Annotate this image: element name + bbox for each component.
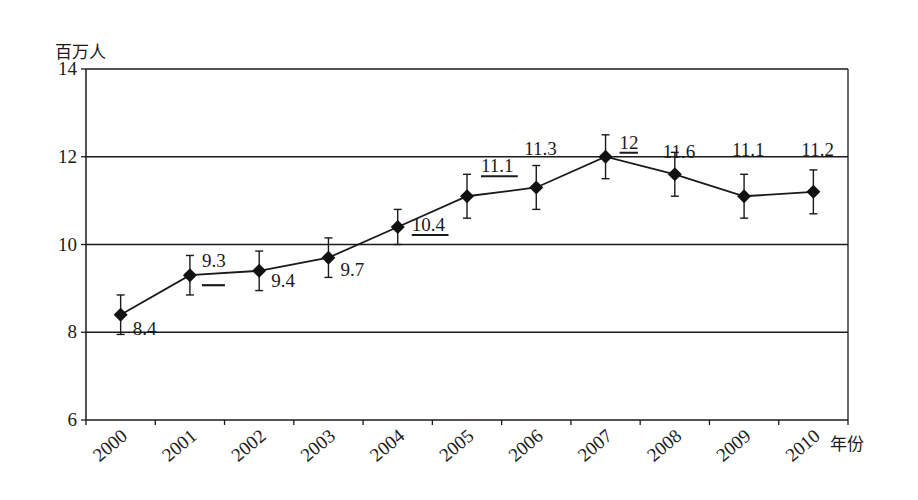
y-tick-label: 8: [68, 321, 78, 342]
line-chart: 68101214 2000200120022003200420052006200…: [0, 0, 918, 500]
y-tick-label: 10: [58, 234, 77, 255]
data-label: 9.3: [202, 250, 226, 271]
data-label: 12: [620, 132, 639, 153]
data-label: 9.7: [340, 259, 364, 280]
data-label: 11.3: [524, 138, 557, 159]
data-labels: 8.49.39.49.710.411.111.31211.611.111.2: [133, 132, 834, 339]
x-axis-title: 年份: [830, 434, 864, 454]
diamond-marker-icon: [737, 189, 751, 203]
x-tick-label: 2008: [643, 425, 686, 466]
x-tick-label: 2002: [227, 425, 270, 466]
x-tick-label: 2006: [504, 425, 547, 466]
data-label: 11.1: [732, 139, 765, 160]
diamond-marker-icon: [806, 185, 820, 199]
data-label: 10.4: [412, 214, 446, 235]
x-tick-label: 2010: [781, 425, 824, 466]
diamond-marker-icon: [183, 268, 197, 282]
x-tick-label: 2009: [712, 425, 755, 466]
data-label: 8.4: [133, 318, 157, 339]
x-tick-label: 2003: [296, 425, 339, 466]
y-tick-label: 12: [58, 146, 77, 167]
y-axis-ticks: 68101214: [58, 58, 86, 430]
diamond-marker-icon: [460, 189, 474, 203]
x-tick-label: 2005: [435, 425, 478, 466]
y-tick-label: 6: [68, 409, 78, 430]
data-label: 11.6: [663, 141, 696, 162]
y-axis-title: 百万人: [55, 42, 106, 62]
diamond-marker-icon: [391, 220, 405, 234]
diamond-marker-icon: [599, 150, 613, 164]
data-label: 11.2: [801, 139, 834, 160]
data-label: 9.4: [271, 270, 295, 291]
data-series: [114, 135, 821, 335]
diamond-marker-icon: [321, 251, 335, 265]
x-tick-label: 2000: [89, 425, 132, 466]
diamond-marker-icon: [252, 264, 266, 278]
x-tick-label: 2004: [366, 425, 409, 466]
x-axis-ticks: 2000200120022003200420052006200720082009…: [86, 420, 848, 465]
diamond-marker-icon: [668, 167, 682, 181]
diamond-marker-icon: [529, 180, 543, 194]
data-label: 11.1: [481, 155, 514, 176]
x-tick-label: 2007: [574, 425, 617, 466]
diamond-marker-icon: [114, 308, 128, 322]
x-tick-label: 2001: [158, 425, 201, 466]
